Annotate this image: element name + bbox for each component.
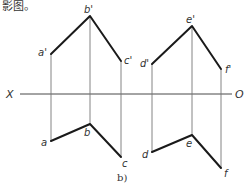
point-label-e: e — [186, 138, 192, 149]
projection-diagram: X O a' b' c' a b c d' e' f' d e f b) — [0, 0, 246, 187]
point-label-a-prime: a' — [38, 47, 47, 58]
point-label-c: c — [122, 158, 128, 169]
point-label-d-prime: d' — [140, 58, 149, 69]
point-label-b: b — [84, 127, 90, 138]
point-label-a: a — [41, 137, 47, 148]
axis-label-x: X — [5, 88, 14, 101]
point-label-f: f — [224, 168, 229, 179]
right-front-view-line — [152, 26, 221, 69]
point-label-c-prime: c' — [124, 55, 132, 66]
point-label-f-prime: f' — [225, 64, 231, 75]
point-label-d: d — [142, 149, 149, 160]
point-label-b-prime: b' — [84, 4, 93, 15]
left-front-view-line — [51, 16, 121, 61]
point-label-e-prime: e' — [186, 14, 195, 25]
subfigure-label: b) — [117, 172, 127, 183]
axis-label-o: O — [235, 88, 244, 101]
